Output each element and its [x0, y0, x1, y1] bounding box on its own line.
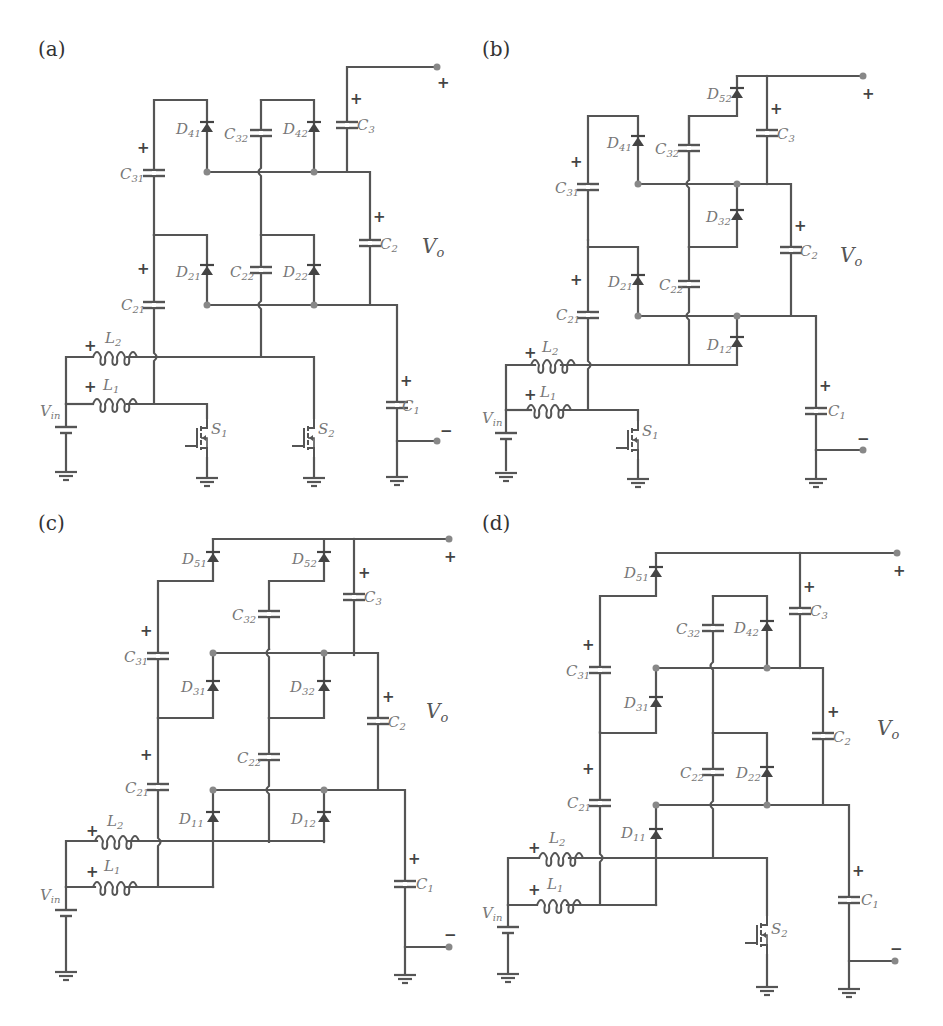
- label-S1-b: S1: [642, 422, 659, 441]
- label-L2-a: L2: [104, 329, 121, 348]
- label-D31-d: D31: [623, 694, 649, 713]
- svg-text:+: +: [528, 839, 541, 857]
- vo-plus-b: +: [862, 85, 875, 103]
- panel-label-a: (a): [38, 37, 66, 61]
- label-C22-d: C22: [680, 764, 704, 783]
- label-C3-d: C3: [810, 602, 828, 621]
- label-L2-c: L2: [106, 812, 123, 831]
- label-D42-d: D42: [733, 619, 759, 638]
- label-C2-b: C2: [800, 242, 818, 261]
- svg-text:+: +: [140, 746, 153, 764]
- label-L1-b: L1: [539, 383, 556, 402]
- panel-a: (a): [38, 37, 453, 486]
- label-C2-c: C2: [388, 713, 406, 732]
- label-C32-c: C32: [232, 606, 256, 625]
- panel-b: (b): [482, 37, 875, 487]
- label-D51-c: D51: [181, 550, 207, 569]
- svg-text:+: +: [86, 822, 99, 840]
- vo-minus-b: −: [857, 430, 870, 448]
- label-C2-a: C2: [380, 235, 398, 254]
- svg-text:+: +: [84, 378, 97, 396]
- svg-text:+: +: [140, 622, 153, 640]
- label-D41-b: D41: [606, 134, 632, 153]
- label-Vin-b: Vin: [482, 409, 502, 428]
- label-L2-d: L2: [548, 829, 565, 848]
- svg-text:+: +: [852, 862, 865, 880]
- label-C1-b: C1: [828, 402, 846, 421]
- label-S2-a: S2: [318, 420, 335, 439]
- panel-label-c: (c): [38, 511, 65, 535]
- label-C31-a: C31: [120, 165, 144, 184]
- label-C31-c: C31: [124, 648, 148, 667]
- label-D12-c: D12: [290, 810, 316, 829]
- label-D52-b: D52: [706, 85, 732, 104]
- label-D51-d: D51: [623, 564, 649, 583]
- label-D21-a: D21: [175, 263, 201, 282]
- svg-text:+: +: [524, 386, 537, 404]
- label-C32-a: C32: [224, 125, 248, 144]
- label-L1-c: L1: [103, 857, 120, 876]
- label-Vo-c: Vo: [426, 699, 448, 725]
- svg-text:+: +: [803, 578, 816, 596]
- svg-text:+: +: [358, 564, 371, 582]
- circuit-figure: (a): [0, 0, 943, 1026]
- svg-text:+: +: [570, 271, 583, 289]
- label-C21-c: C21: [125, 779, 149, 798]
- svg-text:+: +: [408, 850, 421, 868]
- panel-c: (c): [38, 511, 457, 983]
- svg-text:+: +: [137, 260, 150, 278]
- svg-text:+: +: [582, 636, 595, 654]
- svg-text:+: +: [350, 90, 363, 108]
- label-D21-b: D21: [607, 273, 633, 292]
- label-C3-b: C3: [777, 125, 795, 144]
- label-S2-d: S2: [771, 920, 788, 939]
- label-L1-a: L1: [102, 376, 119, 395]
- vo-plus-d: +: [893, 562, 906, 580]
- svg-text:+: +: [794, 217, 807, 235]
- svg-text:+: +: [373, 208, 386, 226]
- svg-text:+: +: [382, 688, 395, 706]
- label-C32-d: C32: [676, 620, 700, 639]
- vo-plus-c: +: [444, 548, 457, 566]
- svg-text:+: +: [582, 760, 595, 778]
- label-L1-d: L1: [546, 875, 563, 894]
- label-D42-a: D42: [282, 120, 308, 139]
- label-D12-b: D12: [706, 336, 732, 355]
- svg-text:+: +: [528, 881, 541, 899]
- label-D11-c: D11: [178, 810, 204, 829]
- label-C22-c: C22: [237, 749, 261, 768]
- svg-text:+: +: [770, 100, 783, 118]
- label-Vin-d: Vin: [482, 904, 502, 923]
- svg-text:+: +: [86, 863, 99, 881]
- panel-label-d: (d): [482, 511, 510, 535]
- label-S1-a: S1: [211, 420, 228, 439]
- label-C1-d: C1: [861, 891, 879, 910]
- label-C1-c: C1: [416, 875, 434, 894]
- label-C32-b: C32: [655, 140, 679, 159]
- label-C22-b: C22: [659, 276, 683, 295]
- label-L2-b: L2: [541, 338, 558, 357]
- label-C21-d: C21: [567, 794, 591, 813]
- vo-minus-d: −: [890, 940, 903, 958]
- label-D11-d: D11: [620, 824, 646, 843]
- label-Vin-c: Vin: [40, 886, 60, 905]
- vo-minus-a: −: [440, 422, 453, 440]
- svg-text:+: +: [827, 703, 840, 721]
- label-C31-b: C31: [555, 179, 579, 198]
- label-D31-c: D31: [180, 678, 206, 697]
- label-D41-a: D41: [175, 120, 201, 139]
- label-Vo-a: Vo: [422, 234, 444, 260]
- label-Vo-b: Vo: [840, 243, 862, 269]
- label-D22-a: D22: [282, 263, 308, 282]
- svg-text:+: +: [570, 153, 583, 171]
- label-Vin-a: Vin: [40, 402, 60, 421]
- label-D52-c: D52: [291, 550, 317, 569]
- label-C3-a: C3: [357, 116, 375, 135]
- svg-text:+: +: [524, 344, 537, 362]
- label-D22-d: D22: [735, 764, 761, 783]
- label-C31-d: C31: [566, 662, 590, 681]
- label-C21-a: C21: [121, 296, 145, 315]
- vo-minus-c: −: [444, 926, 457, 944]
- svg-text:+: +: [84, 337, 97, 355]
- label-C21-b: C21: [556, 306, 580, 325]
